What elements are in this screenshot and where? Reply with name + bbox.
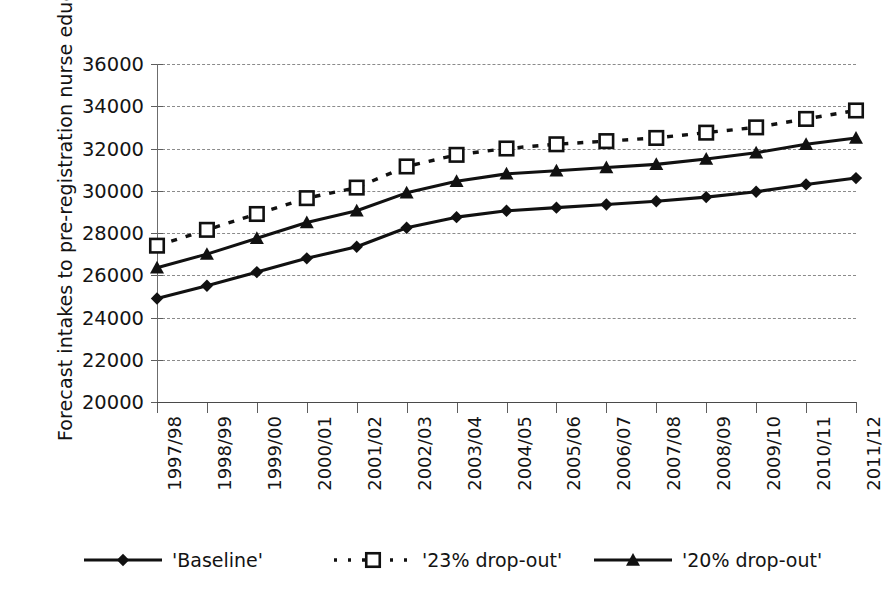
y-axis-title: Forecast intakes to pre-registration nur… (54, 11, 76, 441)
open-square-marker (400, 160, 414, 174)
legend-triangle-sample-icon (590, 547, 676, 573)
diamond-marker (850, 172, 862, 184)
open-square-marker (799, 112, 813, 126)
open-square-marker (699, 126, 713, 140)
diamond-marker (400, 222, 412, 234)
x-axis-tick (257, 402, 258, 413)
x-axis-tick-label: 2001/02 (364, 416, 385, 491)
x-axis-tick-label: 2003/04 (464, 416, 485, 491)
x-axis-tick-label: 1998/99 (214, 416, 235, 491)
y-axis-tick-label: 24000 (82, 306, 144, 329)
x-axis-tick (307, 402, 308, 413)
y-axis-tick-label: 36000 (82, 53, 144, 76)
diamond-marker (800, 178, 812, 190)
x-axis-tick-label: 2007/08 (663, 416, 684, 491)
x-axis-tick (656, 402, 657, 413)
x-axis-tick (207, 402, 208, 413)
y-axis-tick-label: 26000 (82, 264, 144, 287)
diamond-marker (117, 554, 129, 566)
open-square-marker (300, 191, 314, 205)
plot-area: 2000022000240002600028000300003200034000… (157, 64, 856, 402)
legend-entry[interactable]: '20% drop-out' (590, 545, 822, 575)
open-square-marker (500, 142, 514, 156)
x-axis-tick-label: 2010/11 (813, 416, 834, 491)
x-axis-tick (157, 402, 158, 413)
x-axis-tick (806, 402, 807, 413)
legend-entry[interactable]: 'Baseline' (80, 545, 263, 575)
diamond-marker (301, 252, 313, 264)
legend-diamond-sample-icon (80, 547, 166, 573)
y-axis-tick-label: 32000 (82, 137, 144, 160)
x-axis-tick (756, 402, 757, 413)
x-axis-tick (606, 402, 607, 413)
diamond-marker (550, 201, 562, 213)
open-square-marker (250, 207, 264, 221)
legend-label: 'Baseline' (172, 549, 263, 571)
diamond-marker (650, 195, 662, 207)
y-axis-tick-label: 34000 (82, 95, 144, 118)
chart-legend: 'Baseline''23% drop-out''20% drop-out' (0, 545, 894, 585)
diamond-marker (600, 198, 612, 210)
legend-label: '23% drop-out' (422, 549, 562, 571)
diamond-marker (450, 211, 462, 223)
chart-figure: Forecast intakes to pre-registration nur… (0, 0, 894, 604)
x-axis-tick-label: 2004/05 (514, 416, 535, 491)
legend-label: '20% drop-out' (682, 549, 822, 571)
diamond-marker (201, 280, 213, 292)
open-square-marker (600, 134, 614, 148)
x-axis-tick (507, 402, 508, 413)
open-square-marker (650, 131, 664, 145)
legend-entry[interactable]: '23% drop-out' (330, 545, 562, 575)
x-axis-tick-label: 2002/03 (414, 416, 435, 491)
x-axis-tick-label: 2000/01 (314, 416, 335, 491)
y-axis-tick-label: 30000 (82, 179, 144, 202)
diamond-marker (700, 191, 712, 203)
y-axis-tick-label: 28000 (82, 222, 144, 245)
open-square-marker (749, 121, 763, 135)
open-square-marker (550, 138, 564, 152)
y-axis-tick-label: 22000 (82, 348, 144, 371)
x-axis-tick-label: 1997/98 (164, 416, 185, 491)
x-axis-tick (706, 402, 707, 413)
x-axis-tick-label: 2005/06 (563, 416, 584, 491)
x-axis-tick-label: 1999/00 (264, 416, 285, 491)
open-square-marker (200, 223, 214, 237)
x-axis-tick-label: 2006/07 (613, 416, 634, 491)
x-axis-tick (556, 402, 557, 413)
y-axis-tick-label: 20000 (82, 391, 144, 414)
open-square-marker (366, 553, 380, 567)
diamond-marker (251, 266, 263, 278)
diamond-marker (351, 241, 363, 253)
x-axis-line (157, 402, 856, 403)
x-axis-tick (357, 402, 358, 413)
diamond-marker (750, 186, 762, 198)
open-square-marker (150, 239, 164, 253)
x-axis-tick (407, 402, 408, 413)
x-axis-tick-label: 2008/09 (713, 416, 734, 491)
x-axis-tick (856, 402, 857, 413)
open-square-marker (450, 148, 464, 162)
diamond-marker (151, 292, 163, 304)
open-square-marker (350, 181, 364, 195)
x-axis-tick (457, 402, 458, 413)
open-square-marker (849, 104, 863, 118)
x-axis-tick-label: 2009/10 (763, 416, 784, 491)
x-axis-tick-label: 2011/12 (863, 416, 884, 491)
legend-open-square-sample-icon (330, 547, 416, 573)
data-series-group (157, 64, 856, 402)
diamond-marker (500, 205, 512, 217)
